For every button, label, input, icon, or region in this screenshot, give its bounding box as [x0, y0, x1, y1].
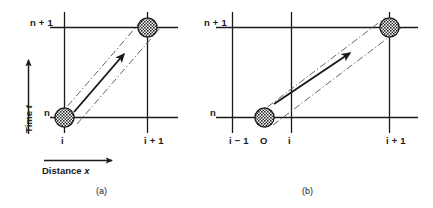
node-i-plus-1-n-plus-1	[138, 18, 157, 37]
time-axis-label-prefix: Time	[23, 108, 34, 133]
characteristic-line-lower	[77, 27, 161, 124]
panel-b-label-n-plus-1: n + 1	[204, 18, 227, 28]
characteristic-line-lower	[273, 28, 401, 125]
characteristic-arrow	[74, 54, 124, 112]
distance-axis-label-prefix: Distance	[42, 165, 84, 176]
time-axis-label: Time t	[23, 105, 34, 133]
time-axis-label-symbol: t	[23, 105, 34, 108]
panel-a-label-n-plus-1: n + 1	[30, 18, 53, 28]
panel-b-caption: (b)	[302, 186, 313, 196]
characteristic-arrow	[274, 53, 350, 104]
panel-a-graphics	[0, 0, 217, 208]
panel-a-label-n: n	[44, 108, 50, 118]
characteristic-line-upper	[257, 18, 385, 115]
panel-a-label-i-plus-1: i + 1	[144, 136, 164, 146]
panel-b-label-i-plus-1: i + 1	[386, 136, 406, 146]
distance-axis-label-symbol: x	[84, 165, 89, 176]
panel-b-graphics	[216, 0, 433, 208]
panel-b: n + 1 n i − 1 O i i + 1 (b)	[216, 0, 433, 208]
panel-b-label-i: i	[288, 136, 291, 146]
panel-b-label-i-minus-1: i − 1	[229, 136, 249, 146]
panel-b-label-origin: O	[260, 136, 268, 146]
figure-root: n + 1 n i i + 1 Time t Distance x (a)	[0, 0, 433, 208]
panel-a-label-i: i	[61, 136, 64, 146]
node-i-plus-1-n-plus-1	[380, 18, 399, 37]
panel-b-label-n: n	[210, 108, 216, 118]
panel-a-caption: (a)	[96, 186, 107, 196]
node-i-n	[55, 108, 74, 127]
characteristic-line-upper	[59, 19, 143, 116]
node-origin-n	[255, 108, 274, 127]
panel-a: n + 1 n i i + 1 Time t Distance x (a)	[0, 0, 217, 208]
distance-axis-label: Distance x	[42, 165, 90, 176]
